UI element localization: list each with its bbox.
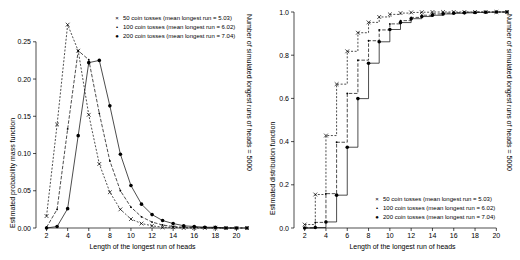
legend-item: ● 200 coin tosses (mean longest run = 7.… [372,213,495,222]
svg-text:0.15: 0.15 [17,113,31,120]
filled-dot-marker-icon: ● [372,213,382,222]
svg-text:4: 4 [66,232,70,239]
svg-text:0.4: 0.4 [279,138,289,145]
pmf-legend: × 50 coin tosses (mean longest run = 5.0… [112,14,235,41]
pmf-x-axis-label: Length of the longest run of heads [30,243,255,250]
small-dot-marker-icon: • [372,204,382,213]
svg-text:20: 20 [492,232,500,239]
svg-text:14: 14 [169,232,177,239]
svg-text:16: 16 [190,232,198,239]
figure-canvas: 24681012141618200.000.050.100.150.200.25… [0,0,520,260]
cdf-y-axis-secondary-label: Number of simulated longest runs of head… [506,14,513,171]
svg-text:0.05: 0.05 [17,187,31,194]
pmf-y-axis-label: Estimated probability mass function [9,118,16,228]
svg-text:12: 12 [148,232,156,239]
legend-label: 100 coin tosses (mean longest run = 6.02… [382,204,495,213]
svg-text:14: 14 [429,232,437,239]
svg-text:16: 16 [450,232,458,239]
panel-cdf: 24681012141618200.00.20.40.60.81.0 Lengt… [260,0,520,260]
svg-text:0.00: 0.00 [17,225,31,232]
cdf-y-axis-label: Estimated distribution function [269,122,276,215]
legend-label: 200 coin tosses (mean longest run = 7.04… [382,213,495,222]
svg-text:2: 2 [303,232,307,239]
cross-marker-icon: × [372,195,382,204]
svg-text:0.10: 0.10 [17,150,31,157]
legend-item: • 100 coin tosses (mean longest run = 6.… [372,204,495,213]
svg-text:18: 18 [211,232,219,239]
svg-text:8: 8 [367,232,371,239]
legend-item: × 50 coin tosses (mean longest run = 5.0… [372,195,495,204]
cross-marker-icon: × [112,14,122,23]
svg-text:6: 6 [345,232,349,239]
svg-text:0.2: 0.2 [279,181,289,188]
svg-text:8: 8 [108,232,112,239]
svg-text:12: 12 [407,232,415,239]
svg-text:1.0: 1.0 [279,9,289,16]
svg-text:0.6: 0.6 [279,95,289,102]
pmf-y-axis-secondary-label: Number of simulated longest runs of head… [246,14,253,171]
legend-item: ● 200 coin tosses (mean longest run = 7.… [112,32,235,41]
svg-text:0.25: 0.25 [17,38,31,45]
svg-text:2: 2 [45,232,49,239]
cdf-legend: × 50 coin tosses (mean longest run = 5.0… [372,195,495,222]
svg-text:0.8: 0.8 [279,52,289,59]
legend-label: 100 coin tosses (mean longest run = 6.02… [122,23,235,32]
svg-text:4: 4 [324,232,328,239]
svg-text:0.20: 0.20 [17,76,31,83]
svg-text:0.0: 0.0 [279,225,289,232]
filled-dot-marker-icon: ● [112,32,122,41]
svg-text:6: 6 [87,232,91,239]
small-dot-marker-icon: • [112,23,122,32]
svg-text:10: 10 [127,232,135,239]
legend-label: 50 coin tosses (mean longest run = 5.03) [382,195,492,204]
legend-item: × 50 coin tosses (mean longest run = 5.0… [112,14,235,23]
cdf-x-axis-label: Length of the longest run of heads [290,243,515,250]
panel-pmf: 24681012141618200.000.050.100.150.200.25… [0,0,260,260]
legend-label: 50 coin tosses (mean longest run = 5.03) [122,14,232,23]
svg-text:18: 18 [471,232,479,239]
legend-label: 200 coin tosses (mean longest run = 7.04… [122,32,235,41]
svg-text:10: 10 [386,232,394,239]
legend-item: • 100 coin tosses (mean longest run = 6.… [112,23,235,32]
svg-text:20: 20 [233,232,241,239]
